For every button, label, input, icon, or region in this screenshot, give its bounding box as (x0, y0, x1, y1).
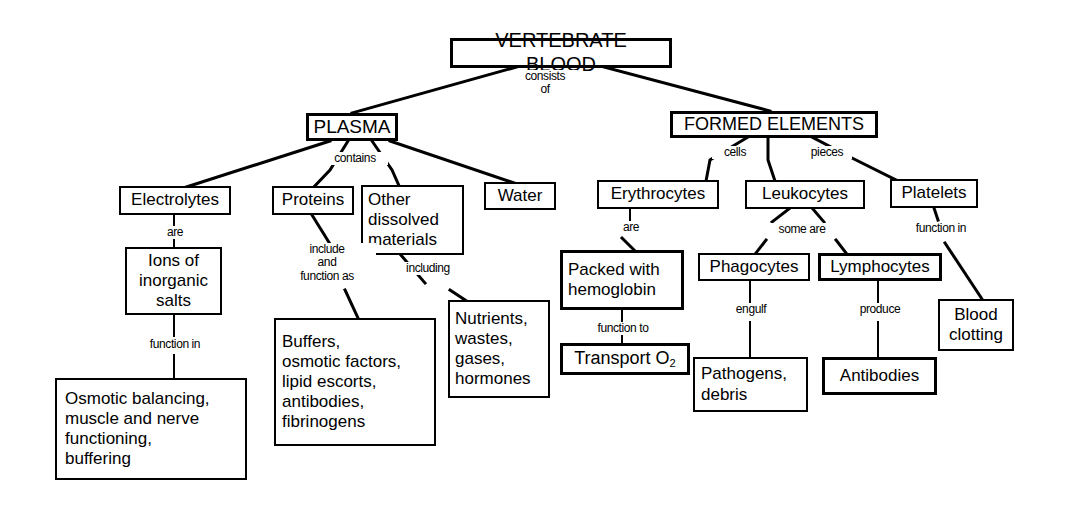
edge-proteins-to-buffers-lower (345, 290, 358, 318)
link-label-function-to: function to (586, 322, 660, 335)
link-label-function-in-ions: function in (140, 338, 210, 351)
link-label-include-and-function-as: include and function as (278, 243, 376, 283)
edge-erythrocytes-to-packed-lower (622, 238, 634, 250)
edge-platelets-to-blood-clotting (934, 208, 938, 220)
subscript-2: 2 (670, 357, 676, 369)
link-label-including: including (396, 262, 460, 275)
node-electrolytes[interactable]: Electrolytes (119, 186, 231, 215)
concept-map-canvas: VERTEBRATE BLOOD PLASMA FORMED ELEMENTS … (0, 0, 1065, 522)
node-plasma[interactable]: PLASMA (306, 113, 398, 141)
node-packed-with-hemoglobin-label: Packed with hemoglobin (568, 260, 676, 300)
link-label-are-erythrocytes: are (611, 221, 651, 234)
node-erythrocytes-label: Erythrocytes (599, 184, 717, 204)
node-erythrocytes[interactable]: Erythrocytes (597, 180, 719, 209)
edge-plasma-to-electrolytes (180, 141, 330, 189)
node-leukocytes[interactable]: Leukocytes (745, 180, 865, 209)
node-phagocytes-label: Phagocytes (700, 257, 808, 277)
node-nutrients[interactable]: Nutrients, wastes, gases, hormones (448, 300, 550, 398)
node-osmotic-balancing-label: Osmotic balancing, muscle and nerve func… (65, 389, 237, 469)
link-label-cells: cells (712, 146, 758, 159)
node-nutrients-label: Nutrients, wastes, gases, hormones (455, 309, 543, 389)
node-ions-of-inorganic-salts[interactable]: Ions of inorganic salts (125, 247, 222, 315)
link-label-some-are: some are (770, 223, 834, 236)
node-ions-of-inorganic-salts-label: Ions of inorganic salts (131, 251, 216, 311)
link-label-function-in-platelets: function in (905, 222, 977, 235)
node-leukocytes-label: Leukocytes (747, 184, 863, 204)
node-lymphocytes[interactable]: Lymphocytes (818, 253, 942, 281)
edge-leukocytes-to-phagocytes (772, 208, 790, 222)
node-pathogens-debris[interactable]: Pathogens, debris (693, 357, 808, 412)
node-formed-elements-label: FORMED ELEMENTS (678, 114, 870, 135)
edge-proteins-to-buffers (312, 215, 330, 244)
edge-leukocytes-to-lymphocytes-lower (836, 240, 846, 253)
node-platelets[interactable]: Platelets (890, 179, 978, 208)
node-other-dissolved-materials-label: Other dissolved materials (368, 190, 457, 250)
link-label-engulf: engulf (725, 303, 777, 316)
node-osmotic-balancing[interactable]: Osmotic balancing, muscle and nerve func… (55, 378, 247, 480)
node-platelets-label: Platelets (892, 183, 976, 203)
node-plasma-label: PLASMA (313, 116, 391, 138)
link-label-are-electrolytes: are (155, 226, 195, 239)
node-water[interactable]: Water (484, 182, 556, 210)
node-electrolytes-label: Electrolytes (121, 190, 229, 210)
node-buffers[interactable]: Buffers, osmotic factors, lipid escorts,… (274, 318, 436, 446)
link-label-consists-of: consists of (513, 70, 577, 97)
node-blood-clotting-label: Blood clotting (940, 305, 1012, 345)
node-blood-clotting[interactable]: Blood clotting (938, 299, 1014, 351)
node-pathogens-debris-label: Pathogens, debris (701, 364, 800, 404)
node-proteins-label: Proteins (274, 190, 352, 210)
link-label-contains: contains (322, 152, 388, 165)
node-vertebrate-blood[interactable]: VERTEBRATE BLOOD (450, 38, 672, 68)
edge-platelets-to-blood-clotting-lower (945, 243, 982, 299)
link-label-pieces: pieces (802, 146, 852, 159)
node-other-dissolved-materials[interactable]: Other dissolved materials (361, 185, 464, 255)
node-proteins[interactable]: Proteins (272, 186, 354, 215)
node-phagocytes[interactable]: Phagocytes (698, 253, 810, 281)
edge-plasma-to-water (390, 141, 520, 185)
node-water-label: Water (486, 186, 554, 206)
node-transport-o2[interactable]: Transport O2 (560, 343, 690, 375)
edge-formed-elements-to-leukocytes (768, 137, 775, 181)
node-antibodies[interactable]: Antibodies (822, 357, 937, 395)
edge-leukocytes-to-phagocytes-lower (756, 240, 766, 253)
node-transport-o2-label: Transport O2 (563, 348, 687, 370)
node-antibodies-label: Antibodies (825, 366, 934, 386)
link-label-produce: produce (850, 303, 910, 316)
node-lymphocytes-label: Lymphocytes (821, 257, 939, 277)
node-packed-with-hemoglobin[interactable]: Packed with hemoglobin (560, 250, 684, 310)
node-formed-elements[interactable]: FORMED ELEMENTS (670, 111, 878, 138)
node-buffers-label: Buffers, osmotic factors, lipid escorts,… (282, 332, 428, 432)
edge-leukocytes-to-lymphocytes (812, 208, 824, 222)
